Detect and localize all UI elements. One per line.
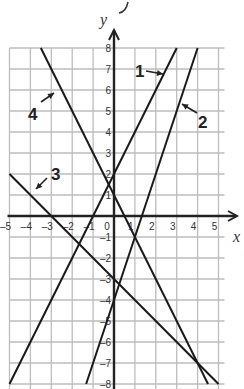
y-tick-label: 6 — [105, 85, 111, 96]
y-axis-label: y — [98, 11, 108, 29]
cut-off-glyph — [119, 2, 128, 13]
y-tick-label: 3 — [105, 148, 111, 159]
y-tick-label: –7 — [100, 358, 112, 369]
y-tick-label: 1 — [105, 190, 111, 201]
x-tick-label: 2 — [149, 221, 155, 232]
x-tick-label: 0 — [104, 221, 110, 232]
x-tick-label: –4 — [21, 221, 33, 232]
y-tick-label: 7 — [105, 64, 111, 75]
x-axis-label: x — [232, 228, 240, 245]
coordinate-plane: xy –5–4–3–2–101234587654321–1–2–3–4–5–6–… — [0, 0, 244, 389]
y-tick-label: –4 — [100, 295, 112, 306]
line-labels: 1234 — [28, 62, 207, 189]
y-tick-label: –8 — [100, 379, 112, 389]
y-tick-label: 5 — [105, 106, 111, 117]
x-tick-label: 4 — [191, 221, 197, 232]
y-tick-label: 4 — [105, 127, 111, 138]
arrowhead-icon — [157, 70, 163, 76]
x-tick-label: 3 — [170, 221, 176, 232]
y-tick-label: –2 — [100, 253, 112, 264]
x-tick-label: –5 — [0, 221, 11, 232]
x-tick-label: 5 — [212, 221, 218, 232]
line-label-1: 1 — [135, 62, 144, 81]
grid — [10, 48, 225, 389]
y-tick-label: –1 — [100, 232, 112, 243]
line-label-4: 4 — [28, 105, 38, 124]
axes: xy — [8, 11, 241, 389]
line-label-3: 3 — [51, 165, 60, 184]
x-tick-label: –3 — [42, 221, 54, 232]
y-tick-label: 8 — [105, 43, 111, 54]
line-label-2: 2 — [198, 113, 207, 132]
